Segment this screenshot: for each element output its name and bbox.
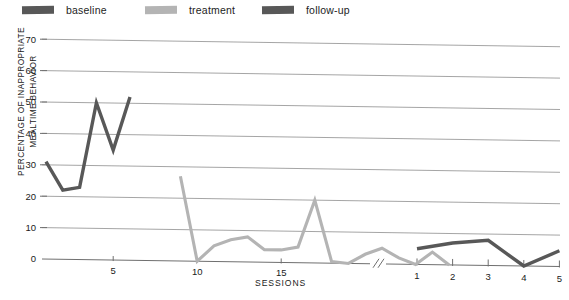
x-tick-label: 5 [111, 265, 116, 276]
chart-figure: baseline treatment follow-up PERCENTAGE … [0, 0, 569, 300]
grid-lines [42, 39, 560, 235]
x-tick-label: 4 [521, 272, 526, 283]
x-tick-label: 10 [192, 266, 203, 277]
plot-area: 102030405060700 5101512345 [0, 0, 569, 300]
x-tick-label: 2 [450, 271, 455, 282]
x-tick-label: 5 [557, 273, 562, 284]
x-tick-label: 1 [414, 270, 419, 281]
y-tick-label: 10 [25, 222, 36, 233]
series-baseline [46, 97, 130, 190]
x-tick-label: 3 [486, 271, 491, 282]
x-axis-ticks: 5101512345 [111, 256, 562, 283]
x-tick-label: 15 [276, 267, 287, 278]
y-tick-label: 0 [31, 253, 36, 264]
y-tick-label: 70 [25, 34, 36, 45]
y-tick-label: 20 [25, 191, 36, 202]
y-tick-label: 30 [25, 159, 36, 170]
y-tick-label: 60 [25, 65, 36, 76]
data-series-group [46, 97, 559, 266]
y-axis-ticks: 102030405060700 [25, 34, 47, 265]
series-treatment [180, 176, 449, 265]
y-tick-label: 50 [25, 96, 36, 107]
y-tick-label: 40 [25, 128, 36, 139]
x-axis [42, 259, 560, 268]
